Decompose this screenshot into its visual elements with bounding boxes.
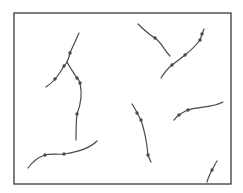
fiber-node: [62, 152, 65, 155]
fiber-node: [200, 32, 203, 35]
fiber-node: [75, 112, 78, 115]
fiber-node: [198, 38, 201, 41]
fiber-node: [170, 63, 173, 66]
fiber-line: [46, 33, 79, 87]
fiber-line: [132, 104, 151, 162]
fiber-node: [153, 36, 156, 39]
fiber-node: [183, 53, 186, 56]
top-middle-fiber: [138, 24, 170, 56]
fiber-node: [177, 113, 180, 116]
fiber-node: [139, 118, 142, 121]
fiber-node: [210, 168, 213, 171]
bottom-left-fiber: [28, 141, 97, 168]
fiber-node: [62, 64, 65, 67]
branching-fiber-right-arm: [67, 62, 82, 140]
bottom-right-fiber: [207, 161, 217, 182]
fiber-line: [174, 102, 223, 120]
fiber-node: [68, 51, 71, 54]
branching-fiber-left-arm: [46, 33, 79, 87]
middle-fiber: [132, 104, 151, 162]
fiber-diagram: [0, 0, 243, 193]
fiber-node: [43, 153, 46, 156]
diagram-frame: [14, 13, 231, 184]
fiber-line: [138, 24, 170, 56]
right-middle-fiber: [174, 102, 223, 120]
fiber-node: [146, 153, 149, 156]
fiber-node: [135, 111, 138, 114]
fiber-node: [53, 77, 56, 80]
fiber-node: [186, 108, 189, 111]
fiber-group: [28, 24, 223, 182]
fiber-node: [78, 81, 81, 84]
fiber-line: [67, 62, 81, 140]
fiber-node: [75, 76, 78, 79]
